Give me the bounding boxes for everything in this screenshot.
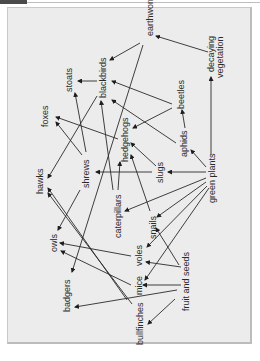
node-green-plants: green plants [207,153,217,203]
edge-beetles-blackbirds [112,81,172,104]
node-owls: owls [49,234,59,252]
node-decaying-line2: vegetation [215,36,225,78]
edge-decaying-earthworms [156,36,208,52]
edge-caterpillars-hedgehogs [118,162,120,190]
node-foxes: foxes [40,105,50,127]
edge-shrews-stoats [75,93,86,152]
edge-plants-aphids [191,150,206,167]
node-aphids: aphids [179,130,189,157]
edge-plants-caterpillars [125,178,206,211]
node-caterpillars: caterpillars [113,194,123,238]
node-bullfinches: bullfinches [135,302,145,345]
node-badgers: badgers [62,279,72,312]
edge-voles-owls [60,243,131,256]
node-slugs: slugs [155,162,165,183]
edge-aphids-beetles [182,110,185,128]
node-beetles: beetles [176,80,186,109]
node-stoats: stoats [64,68,74,92]
node-hedgehogs: hedgehogs [120,117,130,162]
node-earthworms: earthworms [145,0,155,36]
edge-slugs-hedgehogs [131,143,156,166]
node-shrews: shrews [81,159,91,188]
node-voles: voles [134,245,144,266]
edge-fruit-bullfinches [148,299,175,324]
node-hawks: hawks [35,168,45,194]
node-blackbirds: blackbirds [98,57,108,98]
node-mice: mice [134,276,144,295]
edge-hedgehogs-foxes [56,117,118,139]
edge-snails-hedgehogs [131,155,150,211]
edge-fruit-voles [146,262,181,267]
node-fruit-and-seeds: fruit and seeds [181,252,191,311]
node-snails: snails [148,216,158,239]
edge-earthworms-blackbirds [110,43,140,60]
